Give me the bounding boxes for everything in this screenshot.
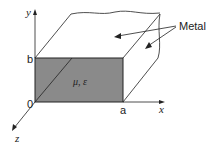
y-axis-label: y: [26, 7, 31, 18]
height-label: b: [27, 54, 33, 65]
metal-arrow-top: [118, 26, 176, 36]
metal-label: Metal: [179, 21, 206, 32]
origin-label: 0: [27, 99, 33, 110]
cut-edge-top: [71, 11, 160, 14]
x-axis-label: x: [159, 104, 164, 115]
width-label: a: [120, 105, 126, 116]
z-axis-label: z: [15, 133, 19, 144]
cut-edge-side: [158, 14, 160, 58]
material-label: μ, ε: [73, 77, 87, 87]
